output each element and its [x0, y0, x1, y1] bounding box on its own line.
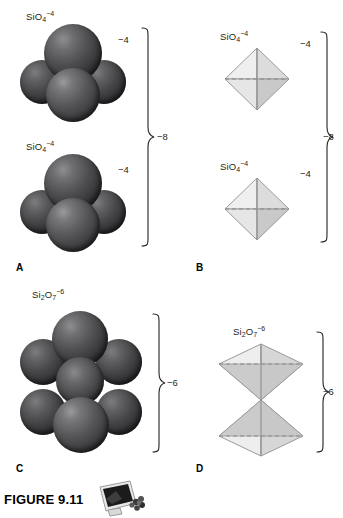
- panel-letter-c: C: [16, 463, 23, 474]
- panel-b-unit-2-formula: SiO4−4: [220, 160, 248, 173]
- panel-b-unit-1-formula: SiO4−4: [220, 30, 248, 43]
- panel-b-tetrahedron-1: [221, 46, 293, 112]
- panel-b-tetrahedron-2: [221, 176, 293, 242]
- panel-c-group-charge: −6: [167, 377, 178, 388]
- oxygen-sphere: [46, 68, 100, 122]
- panel-a-tetrahedron-model-2: [18, 152, 130, 252]
- panel-d-unit-formula: Si2O7−6: [233, 325, 265, 338]
- panel-c-double-tetrahedron-model: [20, 305, 146, 457]
- figure-caption-label: FIGURE 9.11: [4, 492, 84, 507]
- panel-a-group-brace: [139, 26, 155, 248]
- panel-b-unit-1-charge: −4: [300, 38, 311, 49]
- computer-monitor-icon: [96, 479, 148, 517]
- panel-b-unit-2-charge: −4: [300, 168, 311, 179]
- panel-c-group-brace: [150, 312, 166, 454]
- panel-a-unit-1-charge: −4: [118, 34, 129, 45]
- panel-a-tetrahedron-model-1: [18, 22, 130, 122]
- oxygen-sphere: [46, 198, 100, 252]
- panel-letter-a: A: [16, 262, 23, 273]
- panel-letter-d: D: [196, 463, 203, 474]
- panel-a-group-charge: −8: [157, 131, 168, 142]
- panel-c-unit-formula: Si2O7−6: [32, 288, 64, 301]
- panel-letter-b: B: [196, 262, 203, 273]
- panel-d-double-tetrahedron: [213, 342, 309, 458]
- oxygen-sphere: [53, 397, 109, 453]
- figure-silicate-structures: SiO4−4 −4 SiO4−4 −4 −8 A SiO4−4 −4 SiO4−…: [0, 0, 343, 518]
- panel-a-unit-2-charge: −4: [118, 164, 129, 175]
- panel-d-group-charge: −6: [323, 386, 334, 397]
- panel-b-group-charge: −8: [323, 131, 334, 142]
